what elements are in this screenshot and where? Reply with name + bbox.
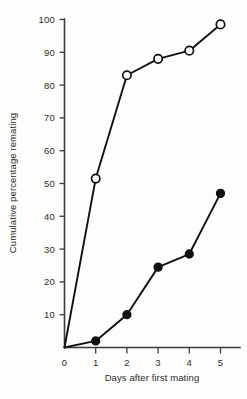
data-point-filled-circle-series (123, 311, 131, 319)
y-tick-label: 80 (44, 80, 55, 91)
y-axis: 102030405060708090100 (39, 14, 65, 347)
data-point-open-circle-series (216, 20, 224, 28)
data-point-open-circle-series (185, 46, 193, 54)
chart-plot-area: 102030405060708090100 012345 Days after … (0, 0, 247, 399)
y-tick-label: 60 (44, 145, 55, 156)
series-line-open-circle-series (65, 24, 221, 347)
data-point-open-circle-series (92, 174, 100, 182)
data-point-open-circle-series (154, 55, 162, 63)
x-tick-label: 4 (187, 357, 192, 368)
data-point-filled-circle-series (92, 337, 100, 345)
data-point-filled-circle-series (154, 263, 162, 271)
x-tick-label: 2 (124, 357, 129, 368)
x-tick-label: 5 (218, 357, 223, 368)
x-axis: 012345 (62, 348, 240, 369)
data-series-lines (65, 24, 221, 347)
x-tick-label: 0 (62, 357, 67, 368)
y-tick-label: 40 (44, 211, 55, 222)
y-axis-title: Cumulative percentage remating (7, 113, 18, 253)
x-axis-ticks (96, 348, 221, 354)
x-axis-tick-labels: 012345 (62, 357, 223, 368)
y-tick-label: 20 (44, 276, 55, 287)
x-tick-label: 3 (155, 357, 160, 368)
data-point-open-circle-series (123, 71, 131, 79)
data-point-filled-circle-series (186, 250, 194, 258)
y-tick-label: 50 (44, 178, 55, 189)
y-tick-label: 10 (44, 309, 55, 320)
x-tick-label: 1 (93, 357, 98, 368)
y-tick-label: 90 (44, 47, 55, 58)
y-tick-label: 30 (44, 244, 55, 255)
data-series-markers (92, 20, 225, 345)
chart-figure: 102030405060708090100 012345 Days after … (0, 0, 247, 399)
y-tick-label: 100 (39, 14, 55, 25)
x-axis-title: Days after first mating (105, 372, 200, 383)
y-axis-tick-labels: 102030405060708090100 (39, 14, 55, 320)
y-tick-label: 70 (44, 112, 55, 123)
data-point-filled-circle-series (217, 190, 225, 198)
